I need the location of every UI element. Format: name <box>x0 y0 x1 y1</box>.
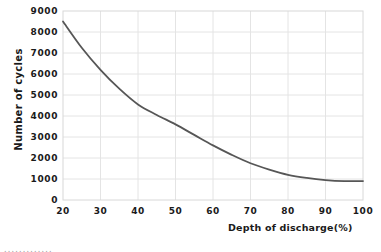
x-tick-label: 20 <box>43 206 83 216</box>
x-axis-title: Depth of discharge(%) <box>228 222 353 233</box>
y-axis-title: Number of cycles <box>13 45 24 155</box>
x-tick-label: 80 <box>268 206 308 216</box>
x-tick-label: 70 <box>231 206 271 216</box>
x-tick-label: 50 <box>156 206 196 216</box>
x-tick-label: 30 <box>81 206 121 216</box>
cycle-life-chart: 0100020003000400050006000700080009000 20… <box>0 0 381 252</box>
x-tick-label: 40 <box>118 206 158 216</box>
vertical-gridlines <box>101 11 326 200</box>
x-tick-label: 90 <box>306 206 346 216</box>
y-tick-label: 8000 <box>12 27 58 37</box>
y-tick-label: 1000 <box>12 174 58 184</box>
clipped-caption-text: ............. <box>4 245 334 252</box>
y-tick-label: 2000 <box>12 153 58 163</box>
y-tick-label: 9000 <box>12 6 58 16</box>
x-tick-label: 100 <box>343 206 381 216</box>
x-tick-label: 60 <box>193 206 233 216</box>
y-tick-label: 0 <box>12 195 58 205</box>
